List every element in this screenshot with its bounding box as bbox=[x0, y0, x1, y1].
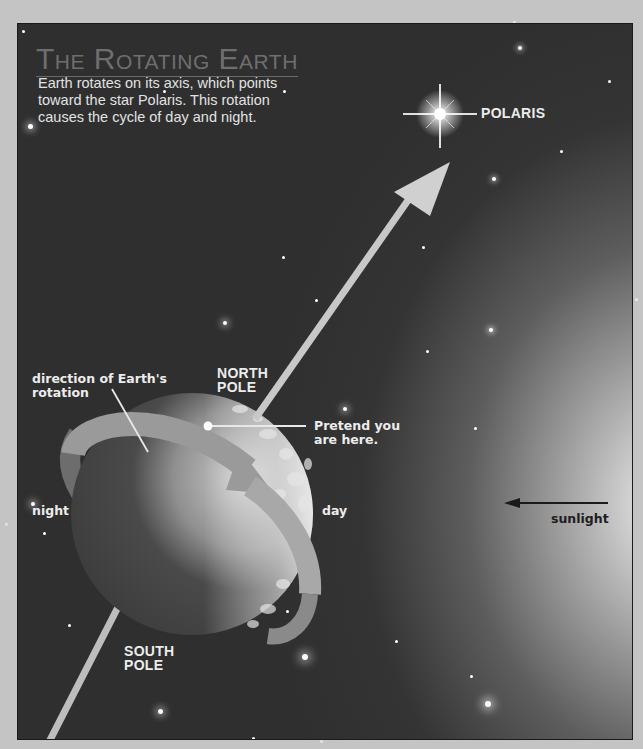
north-pole-label: NORTH POLE bbox=[217, 366, 268, 394]
axis-arrow bbox=[255, 162, 450, 419]
rotation-direction-label: direction of Earth's rotation bbox=[32, 372, 167, 400]
sunlight-arrow-icon bbox=[504, 498, 608, 508]
caption-line: Earth rotates on its axis, which points bbox=[38, 75, 338, 92]
polaris-label: POLARIS bbox=[481, 106, 545, 120]
caption-line: causes the cycle of day and night. bbox=[38, 109, 338, 126]
diagram-panel: The Rotating Earth Earth rotates on its … bbox=[17, 23, 633, 740]
page-title: The Rotating Earth bbox=[36, 44, 298, 77]
caption-line: toward the star Polaris. This rotation bbox=[38, 92, 338, 109]
polaris-star-icon bbox=[403, 84, 477, 148]
day-label: day bbox=[322, 504, 347, 518]
description-text: Earth rotates on its axis, which points … bbox=[38, 75, 338, 126]
pretend-you-are-here-label: Pretend you are here. bbox=[314, 419, 400, 447]
night-label: night bbox=[32, 504, 69, 518]
south-pole-label: SOUTH POLE bbox=[124, 644, 175, 672]
sunlight-label: sunlight bbox=[551, 512, 609, 526]
